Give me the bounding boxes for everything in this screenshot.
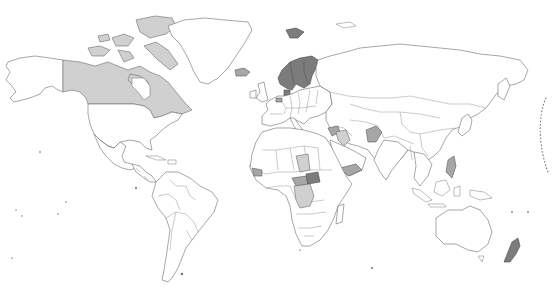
country-new-zealand[interactable] [504,238,520,262]
country-norway-sweden-finland[interactable] [278,56,318,90]
continent-south-america[interactable] [152,172,218,282]
caribbean-hispaniola[interactable] [168,160,176,164]
country-philippines[interactable] [446,156,456,178]
continent-europe[interactable] [262,86,332,126]
caribbean-cuba[interactable] [146,156,166,160]
world-map [0,0,552,305]
country-australia[interactable] [436,206,492,252]
islet-sulawesi[interactable] [454,186,460,196]
country-indonesia-java[interactable] [428,204,446,207]
country-indonesia-sumatra[interactable] [412,188,432,202]
country-south-sudan[interactable] [306,172,320,184]
region-franz-josef[interactable] [336,22,356,28]
region-svalbard[interactable] [286,28,304,38]
country-png[interactable] [470,190,492,200]
date-line-dotted-arc [540,98,548,172]
central-america[interactable] [132,164,156,182]
country-indonesia-borneo[interactable] [434,180,450,196]
country-netherlands[interactable] [276,98,282,102]
canadian-arctic-archipelago[interactable] [88,16,178,70]
country-iceland[interactable] [235,68,250,76]
country-ireland[interactable] [250,90,256,98]
country-australia-tasmania[interactable] [478,256,484,262]
country-uk[interactable] [256,82,268,102]
country-usa-alaska[interactable] [6,56,63,102]
